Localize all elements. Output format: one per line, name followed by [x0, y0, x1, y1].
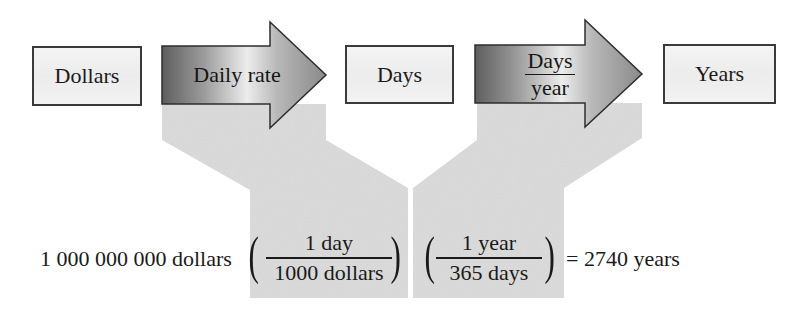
node-dollars-label: Dollars: [55, 65, 120, 87]
node-years: Years: [663, 44, 776, 104]
factor-1-numerator: 1 day: [305, 232, 353, 257]
equation-result: = 2740 years: [566, 248, 680, 270]
arrow-days-per-year-fraction: Days year: [525, 50, 574, 99]
node-days-label: Days: [377, 64, 422, 86]
node-years-label: Years: [695, 63, 744, 85]
conversion-diagram: Dollars Days Years Daily rate Days year …: [0, 0, 795, 313]
arrow-days-per-year-denominator: year: [531, 75, 569, 99]
paren-close-1: ): [390, 230, 400, 282]
factor-1-denominator: 1000 dollars: [274, 259, 383, 284]
factor-2-numerator: 1 year: [462, 232, 516, 257]
equation-factor-1: 1 day 1000 dollars: [266, 232, 392, 284]
arrow-daily-rate: Daily rate: [162, 46, 312, 104]
equation-factor-2: 1 year 365 days: [436, 232, 542, 284]
paren-close-2: ): [544, 230, 554, 282]
arrow-days-per-year: Days year: [475, 45, 625, 103]
paren-open-2: (: [424, 230, 434, 282]
factor-2-denominator: 365 days: [450, 259, 529, 284]
paren-open-1: (: [248, 230, 258, 282]
arrow-daily-rate-label: Daily rate: [193, 64, 280, 86]
equation-start-value: 1 000 000 000 dollars: [40, 248, 232, 270]
node-dollars: Dollars: [32, 46, 142, 106]
node-days: Days: [345, 45, 454, 104]
arrow-days-per-year-numerator: Days: [525, 50, 574, 75]
